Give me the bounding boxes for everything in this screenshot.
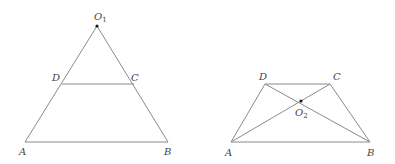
label-B-left: B [163, 146, 171, 157]
label-C-left: C [131, 72, 139, 83]
label-A-left: A [18, 146, 26, 157]
left-figure-triangle: O1 D C A B [18, 11, 171, 157]
label-O1: O1 [94, 11, 107, 24]
point-O2 [299, 99, 302, 102]
label-D-right: D [258, 71, 267, 82]
right-figure-trapezoid: D C A B O2 [224, 71, 374, 158]
label-C-right: C [333, 71, 341, 82]
label-A-right: A [224, 147, 232, 158]
label-B-right: B [366, 147, 374, 158]
segment-AD [231, 84, 265, 142]
label-O2: O2 [295, 107, 308, 120]
label-D-left: D [51, 72, 60, 83]
point-O1 [95, 24, 98, 27]
geometry-diagram: O1 D C A B D C A B O2 [0, 0, 395, 164]
segment-BC [330, 84, 370, 142]
